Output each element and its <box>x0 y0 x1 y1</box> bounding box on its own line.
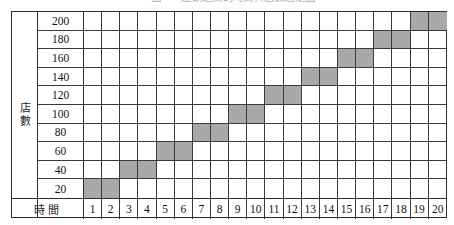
data-cell-filled <box>392 31 410 49</box>
grid-cell <box>392 179 410 198</box>
grid-cell <box>411 49 429 67</box>
y-axis-tick: 120 <box>38 86 83 105</box>
grid-cell <box>229 12 247 30</box>
grid-cell <box>138 68 156 86</box>
y-axis-tick: 20 <box>38 179 83 198</box>
figure-root: 圖一 連鎖超商的時間與店數之走圖 店數 20018016014012010080… <box>0 0 454 225</box>
grid-cell <box>157 49 175 67</box>
grid-cell <box>392 49 410 67</box>
grid-cell <box>247 31 265 49</box>
grid-cell <box>157 68 175 86</box>
data-cell-filled <box>175 142 193 160</box>
x-axis-tick: 20 <box>429 199 447 219</box>
grid-cell <box>84 49 102 67</box>
grid-cell <box>284 49 302 67</box>
data-cell-filled <box>102 179 120 198</box>
grid-cell <box>138 31 156 49</box>
grid-cell <box>102 105 120 123</box>
grid-cell <box>247 49 265 67</box>
grid-cell <box>411 142 429 160</box>
grid-cell <box>138 124 156 142</box>
x-axis-tick: 11 <box>265 199 283 219</box>
grid-cell <box>338 142 356 160</box>
x-axis-tick: 13 <box>302 199 320 219</box>
grid-cell <box>247 12 265 30</box>
grid-cell <box>356 12 374 30</box>
grid-row <box>84 86 447 105</box>
grid-cell <box>302 124 320 142</box>
grid-cell <box>193 86 211 104</box>
grid-cell <box>193 68 211 86</box>
grid-cell <box>193 105 211 123</box>
grid-cell <box>229 86 247 104</box>
grid-cell <box>229 124 247 142</box>
grid-cell <box>284 105 302 123</box>
grid-cell <box>429 105 447 123</box>
grid-cell <box>157 31 175 49</box>
x-axis-tick: 8 <box>211 199 229 219</box>
grid-cell <box>84 31 102 49</box>
chart-frame: 店數 20018016014012010080604020 時間 1234567… <box>11 11 447 218</box>
data-cell-filled <box>338 49 356 67</box>
x-axis-tick: 2 <box>102 199 120 219</box>
x-axis-tick-labels: 1234567891011121314151617181920 <box>84 198 447 219</box>
data-cell-filled <box>320 68 338 86</box>
grid-cell <box>356 68 374 86</box>
x-axis-tick: 16 <box>356 199 374 219</box>
grid-cell <box>429 68 447 86</box>
grid-cell <box>102 49 120 67</box>
grid-cell <box>247 179 265 198</box>
grid-cell <box>320 31 338 49</box>
grid-cell <box>175 161 193 179</box>
grid-cell <box>229 179 247 198</box>
grid-cell <box>84 142 102 160</box>
grid-cell <box>102 161 120 179</box>
data-cell-filled <box>84 179 102 198</box>
data-cell-filled <box>193 124 211 142</box>
grid-cell <box>211 68 229 86</box>
grid-row <box>84 31 447 50</box>
grid-cell <box>120 31 138 49</box>
grid-cell <box>374 124 392 142</box>
grid-cell <box>429 124 447 142</box>
grid-cell <box>392 68 410 86</box>
grid-cell <box>338 179 356 198</box>
grid-cell <box>247 86 265 104</box>
grid-cell <box>392 86 410 104</box>
grid-cell <box>138 49 156 67</box>
grid-cell <box>284 179 302 198</box>
data-cell-filled <box>229 105 247 123</box>
grid-cell <box>84 124 102 142</box>
grid-cell <box>265 12 283 30</box>
grid-cell <box>120 86 138 104</box>
grid-cell <box>265 124 283 142</box>
grid-cell <box>175 179 193 198</box>
grid-cell <box>211 12 229 30</box>
grid-cell <box>193 49 211 67</box>
grid-cell <box>175 12 193 30</box>
grid-cell <box>120 142 138 160</box>
x-axis-tick: 4 <box>138 199 156 219</box>
grid-cell <box>302 86 320 104</box>
y-axis-tick: 200 <box>38 12 83 31</box>
grid-cell <box>302 179 320 198</box>
grid-cell <box>374 86 392 104</box>
x-axis-tick: 9 <box>229 199 247 219</box>
grid-cell <box>320 86 338 104</box>
y-axis-tick-labels: 20018016014012010080604020 <box>38 12 84 198</box>
grid-cell <box>392 124 410 142</box>
grid-cell <box>229 142 247 160</box>
grid-cell <box>302 49 320 67</box>
x-axis-tick: 5 <box>157 199 175 219</box>
grid-cell <box>392 142 410 160</box>
grid-cell <box>374 68 392 86</box>
data-cell-filled <box>429 12 447 30</box>
grid-cell <box>338 12 356 30</box>
grid-cell <box>193 179 211 198</box>
grid-cell <box>175 68 193 86</box>
grid-cell <box>374 161 392 179</box>
grid-cell <box>374 142 392 160</box>
y-axis-tick: 80 <box>38 124 83 143</box>
grid-cell <box>429 86 447 104</box>
grid-cell <box>120 12 138 30</box>
